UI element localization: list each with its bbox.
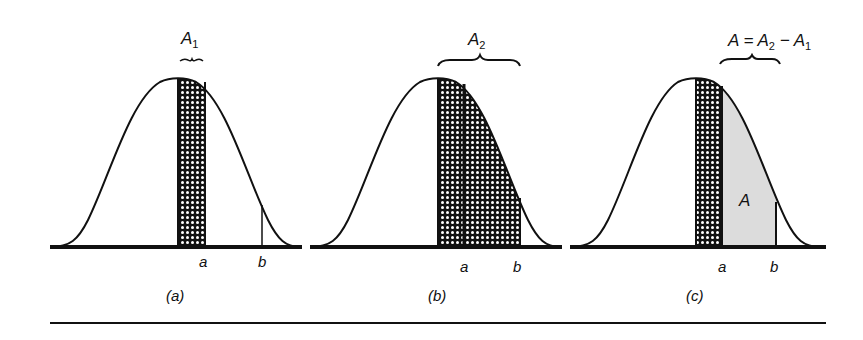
x-label-b: b [513,258,521,275]
normal-curve [310,78,560,247]
x-label-b: b [258,253,266,270]
x-label-a: a [460,258,468,275]
brace-icon [438,55,520,66]
shaded-area-a1 [696,60,722,250]
normal-curve-area-diagram: A1 a b (a) A2 a b (b) A = A2 − A1 A a b … [0,0,863,340]
panel-c: A = A2 − A1 A a b (c) [570,31,826,304]
panel-b: A2 a b (b) [0,0,562,304]
caption-c: (c) [686,287,704,304]
caption-a: (a) [166,287,184,304]
x-label-a: a [199,253,207,270]
caption-b: (b) [428,287,446,304]
panel-a: A1 a b (a) [50,29,302,304]
inner-area-label: A [738,191,750,210]
area-label-equation: A = A2 − A1 [727,31,811,52]
brace-icon [720,55,780,64]
gray-area-a [722,60,776,250]
x-label-a: a [718,258,726,275]
shaded-area-a2 [438,60,520,250]
shaded-area-a1 [178,60,205,250]
area-label-a2: A2 [467,30,485,51]
brace-icon [180,59,203,61]
area-label-a1: A1 [180,29,198,50]
x-label-b: b [770,258,778,275]
